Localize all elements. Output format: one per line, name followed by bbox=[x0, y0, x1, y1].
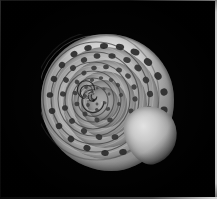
plate-border-bottom bbox=[0, 197, 217, 199]
plate-border-right bbox=[215, 0, 217, 199]
plate-border-top bbox=[0, 0, 217, 1]
plate-border-left bbox=[0, 0, 1, 199]
photograph bbox=[0, 0, 217, 199]
whorl-ring-6 bbox=[87, 87, 119, 120]
snail-shell bbox=[41, 34, 174, 171]
image-canvas: Grayscale photograph of a spiral snail s… bbox=[0, 0, 217, 199]
